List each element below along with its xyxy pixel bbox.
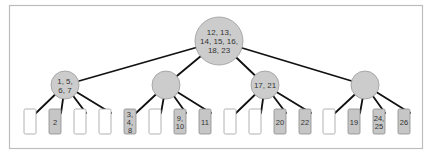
- internal-node-circle: [152, 71, 180, 99]
- leaf-node-filled: 19: [348, 109, 360, 134]
- leaf-node-filled: 22: [299, 109, 311, 134]
- leaf-box: [249, 109, 261, 134]
- leaf-node-empty: [99, 109, 111, 134]
- leaf-node-filled: 20: [274, 109, 286, 134]
- leaf-box: [74, 109, 86, 134]
- leaf-node-filled: 24,25: [373, 109, 385, 134]
- leaf-box: [99, 109, 111, 134]
- leaf-node-empty: [74, 109, 86, 134]
- node-key-text: 14, 15, 16,: [200, 37, 238, 46]
- leaf-node-empty: [24, 109, 36, 134]
- b-tree-diagram: 12, 13,14, 15, 16,18, 231, 5,6, 717, 212…: [0, 0, 430, 154]
- leaf-node-empty: [149, 109, 161, 134]
- node-key-text: 10: [176, 122, 184, 131]
- leaf-node-filled: 3,4,8: [124, 109, 136, 135]
- leaf-node-empty: [224, 109, 236, 134]
- leaf-box: [323, 109, 335, 134]
- node-key-text: 26: [400, 118, 408, 127]
- node-key-text: 18, 23: [208, 46, 231, 55]
- node-key-text: 12, 13,: [207, 28, 231, 37]
- leaf-node-filled: 26: [398, 109, 410, 134]
- node-key-text: 19: [350, 118, 358, 127]
- root-node: 12, 13,14, 15, 16,18, 23: [195, 17, 243, 65]
- internal-node-circle: [351, 71, 379, 99]
- leaf-node-empty: [323, 109, 335, 134]
- leaf-node-empty: [249, 109, 261, 134]
- internal-node-1: 1, 5,6, 7: [51, 71, 79, 99]
- node-key-text: 2: [53, 118, 57, 127]
- leaf-box: [24, 109, 36, 134]
- node-key-text: 25: [375, 122, 383, 131]
- leaf-node-filled: 9,10: [174, 109, 186, 134]
- internal-node-2: [152, 71, 180, 99]
- leaf-node-filled: 11: [199, 109, 211, 134]
- internal-node-4: [351, 71, 379, 99]
- leaf-box: [149, 109, 161, 134]
- node-key-text: 17, 21: [254, 81, 277, 90]
- leaf-node-filled: 2: [49, 109, 61, 134]
- node-key-text: 20: [276, 118, 284, 127]
- node-key-text: 1, 5,: [57, 77, 73, 86]
- node-key-text: 11: [201, 118, 209, 127]
- leaf-box: [224, 109, 236, 134]
- internal-node-3: 17, 21: [251, 71, 279, 99]
- node-key-text: 8: [128, 126, 132, 135]
- node-key-text: 22: [301, 118, 309, 127]
- node-key-text: 6, 7: [58, 86, 72, 95]
